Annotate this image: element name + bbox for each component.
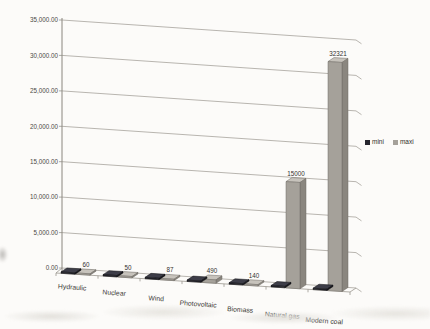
y-tick-label: 20,000.00 — [30, 123, 59, 130]
gridline — [62, 91, 362, 115]
bar-maxi-5-front — [286, 182, 300, 289]
y-tick-label: 30,000.00 — [30, 52, 59, 59]
bar-maxi-5 — [286, 178, 306, 289]
y-tick-labels: 35,000.0030,000.0025,000.0020,000.0015,0… — [30, 16, 59, 271]
gridline — [62, 55, 362, 79]
gridline — [62, 162, 362, 186]
y-tick-label: 35,000.00 — [30, 16, 59, 23]
legend-label-maxi: maxi — [400, 139, 414, 146]
bar-maxi-6-side — [342, 58, 348, 291]
legend-swatch-maxi-icon — [393, 140, 398, 145]
category-label-0: Hydraulic — [58, 283, 87, 293]
chart-figure: 605087490140150003232135,000.0030,000.00… — [0, 0, 430, 329]
gridline — [62, 20, 362, 44]
legend-label-mini: mini — [372, 139, 384, 146]
value-label-2: 87 — [166, 266, 174, 273]
gridline — [62, 233, 362, 257]
bar-maxi-6-front — [328, 62, 342, 292]
value-label-3: 490 — [207, 267, 218, 274]
scan-noise-artifact — [0, 301, 430, 329]
bar-chart-canvas: 605087490140150003232135,000.0030,000.00… — [0, 0, 430, 329]
category-label-1: Nuclear — [102, 288, 127, 297]
y-axis — [59, 18, 62, 272]
gridlines — [62, 20, 362, 292]
y-tick-label: 25,000.00 — [30, 87, 59, 94]
value-label-0: 60 — [82, 261, 90, 268]
bar-maxi-6 — [328, 58, 348, 292]
legend-swatch-mini-icon — [365, 140, 370, 145]
legend: mini maxi — [365, 139, 414, 146]
y-tick-label: 10,000.00 — [30, 193, 59, 200]
y-tick-label: 5,000.00 — [33, 229, 58, 236]
scan-smudge-artifact — [0, 246, 8, 263]
value-labels: 6050874901401500032321 — [82, 50, 347, 279]
y-tick-label: 15,000.00 — [30, 158, 59, 165]
legend-item-mini: mini — [365, 139, 384, 146]
legend-item-maxi: maxi — [393, 139, 414, 146]
gridline — [62, 126, 362, 150]
value-label-1: 50 — [124, 264, 132, 271]
value-label-5: 15000 — [287, 170, 305, 177]
value-label-4: 140 — [249, 272, 260, 279]
bars — [61, 58, 348, 292]
gridline — [62, 197, 362, 221]
y-tick-label: 0.00 — [46, 264, 59, 271]
value-label-6: 32321 — [329, 50, 347, 57]
bar-maxi-5-side — [300, 178, 306, 288]
